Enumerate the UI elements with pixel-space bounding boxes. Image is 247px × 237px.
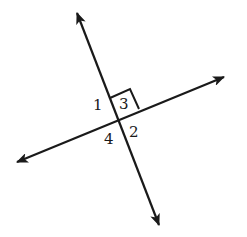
angle-label-2: 2 <box>129 123 139 141</box>
angle-label-3: 3 <box>119 95 129 113</box>
line-b <box>17 77 224 162</box>
line-a <box>77 13 159 225</box>
angle-label-4: 4 <box>104 130 114 148</box>
perpendicular-lines-diagram: 1 2 3 4 <box>0 0 247 237</box>
angle-label-1: 1 <box>93 96 103 114</box>
